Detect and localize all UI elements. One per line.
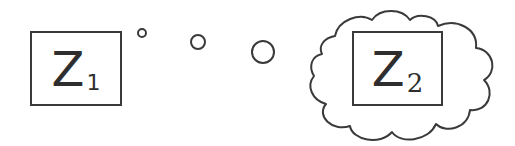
z2-letter: Z <box>372 45 405 93</box>
z1-subscript: 1 <box>86 70 100 95</box>
z2-subscript: 2 <box>407 68 424 98</box>
z1-label: Z1 <box>32 33 120 104</box>
z2-label: Z2 <box>354 33 441 104</box>
z1-box: Z1 <box>30 31 122 106</box>
thought-bubble-large <box>252 41 274 63</box>
z2-box: Z2 <box>352 31 443 106</box>
z1-letter: Z <box>52 45 85 93</box>
thought-bubble-small <box>138 29 146 37</box>
thought-bubble-medium <box>191 35 205 49</box>
